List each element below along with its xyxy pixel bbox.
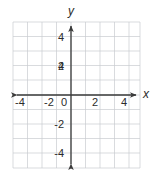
y-tick-label-neg4: -4	[54, 147, 64, 159]
y-tick-label-2: 2	[58, 60, 64, 72]
coordinate-plane-figure: -4 -2 2 4 0 4 4 4 2 -2 -4 x y	[0, 0, 153, 177]
x-tick-label-pos2: 2	[92, 96, 98, 108]
y-tick-label-4: 4	[58, 31, 64, 43]
x-axis-name: x	[142, 87, 150, 101]
y-tick-label-neg2: -2	[54, 118, 64, 130]
x-tick-label-neg4: -4	[15, 96, 25, 108]
coordinate-grid-svg: -4 -2 2 4 0 4 4 4 2 -2 -4 x y	[0, 0, 153, 177]
origin-label: 0	[61, 96, 67, 108]
y-axis-name: y	[67, 4, 75, 18]
x-tick-label-neg2: -2	[44, 96, 54, 108]
figure-background	[0, 0, 153, 177]
x-tick-label-pos4: 4	[121, 96, 127, 108]
